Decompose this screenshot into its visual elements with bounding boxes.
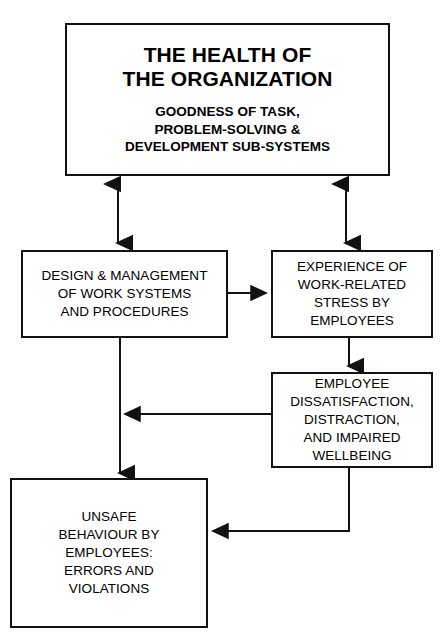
node-design-line-1: DESIGN & MANAGEMENT [42, 267, 208, 285]
node-unsafe-behaviour: UNSAFE BEHAVIOUR BY EMPLOYEES: ERRORS AN… [10, 478, 208, 628]
node-dissatisfaction-line-3: DISTRACTION, [290, 411, 414, 429]
node-dissatisfaction-line-2: DISSATISFACTION, [290, 393, 414, 411]
node-design-text: DESIGN & MANAGEMENT OF WORK SYSTEMS AND … [42, 267, 208, 321]
node-health-headline-line-1: THE HEALTH OF [122, 43, 332, 68]
node-experience-of-stress: EXPERIENCE OF WORK-RELATED STRESS BY EMP… [271, 250, 433, 338]
node-stress-line-3: STRESS BY [297, 294, 407, 312]
node-unsafe-line-2: BEHAVIOUR BY [59, 526, 160, 544]
node-stress-text: EXPERIENCE OF WORK-RELATED STRESS BY EMP… [297, 258, 407, 330]
diagram-canvas: THE HEALTH OF THE ORGANIZATION GOODNESS … [0, 0, 448, 644]
node-health-subhead-line-3: DEVELOPMENT SUB-SYSTEMS [125, 138, 330, 156]
node-dissatisfaction-text: EMPLOYEE DISSATISFACTION, DISTRACTION, A… [290, 375, 414, 465]
node-dissatisfaction-line-1: EMPLOYEE [290, 375, 414, 393]
node-dissatisfaction-line-5: WELLBEING [290, 447, 414, 465]
node-unsafe-line-1: UNSAFE [59, 508, 160, 526]
node-stress-line-1: EXPERIENCE OF [297, 258, 407, 276]
node-health-subhead-line-2: PROBLEM-SOLVING & [125, 121, 330, 139]
node-stress-line-2: WORK-RELATED [297, 276, 407, 294]
node-health-headline: THE HEALTH OF THE ORGANIZATION [122, 43, 332, 92]
node-employee-dissatisfaction: EMPLOYEE DISSATISFACTION, DISTRACTION, A… [271, 372, 433, 468]
node-health-headline-line-2: THE ORGANIZATION [122, 67, 332, 92]
node-unsafe-line-4: ERRORS AND [59, 562, 160, 580]
node-design-line-2: OF WORK SYSTEMS [42, 285, 208, 303]
node-stress-line-4: EMPLOYEES [297, 312, 407, 330]
connector-dissatisfaction-unsafe [213, 468, 349, 531]
node-health-subhead: GOODNESS OF TASK, PROBLEM-SOLVING & DEVE… [125, 103, 330, 156]
node-design-and-management: DESIGN & MANAGEMENT OF WORK SYSTEMS AND … [21, 250, 228, 338]
node-unsafe-line-3: EMPLOYEES: [59, 544, 160, 562]
node-design-line-3: AND PROCEDURES [42, 303, 208, 321]
node-unsafe-text: UNSAFE BEHAVIOUR BY EMPLOYEES: ERRORS AN… [59, 508, 160, 598]
node-health-of-organization: THE HEALTH OF THE ORGANIZATION GOODNESS … [65, 23, 390, 176]
node-unsafe-line-5: VIOLATIONS [59, 580, 160, 598]
node-health-subhead-line-1: GOODNESS OF TASK, [125, 103, 330, 121]
node-dissatisfaction-line-4: AND IMPAIRED [290, 429, 414, 447]
